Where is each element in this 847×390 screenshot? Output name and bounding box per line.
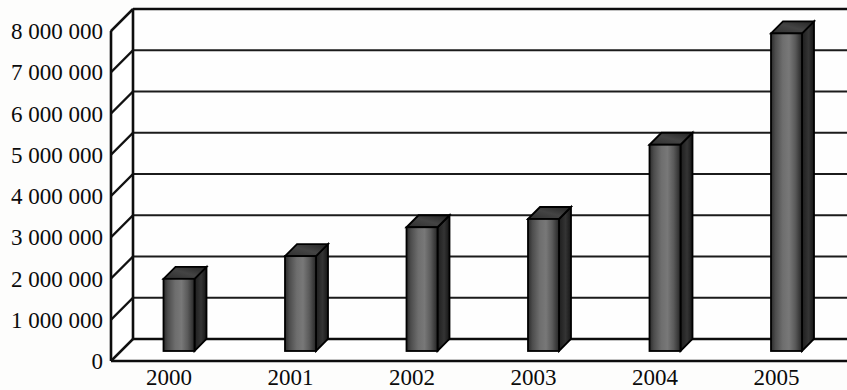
x-category-label: 2002 [389, 365, 435, 390]
x-category-label: 2005 [754, 365, 800, 390]
bar-front-face [407, 227, 438, 351]
y-tick-label: 0 [92, 349, 104, 374]
bar-front-face [771, 33, 802, 351]
x-category-label: 2003 [511, 365, 557, 390]
bar-side-face [195, 267, 207, 351]
bar-side-face [559, 207, 571, 351]
y-tick-label: 8 000 000 [11, 19, 103, 44]
x-category-label: 2001 [268, 365, 314, 390]
bar-chart-figure: 01 000 0002 000 0003 000 0004 000 0005 0… [0, 0, 847, 390]
bar-2003 [528, 207, 571, 351]
bar-side-face [681, 133, 693, 351]
bar-2002 [407, 215, 450, 351]
x-axis-category-labels: 200020012002200320042005 [146, 365, 800, 390]
bar-front-face [650, 145, 681, 351]
y-tick-label: 4 000 000 [11, 184, 103, 209]
bar-2000 [164, 267, 207, 351]
y-tick-label: 2 000 000 [11, 267, 103, 292]
chart-canvas: 01 000 0002 000 0003 000 0004 000 0005 0… [0, 0, 847, 390]
bar-side-face [438, 215, 450, 351]
y-tick-label: 5 000 000 [11, 143, 103, 168]
bar-front-face [164, 279, 195, 351]
y-axis-tick-labels: 01 000 0002 000 0003 000 0004 000 0005 0… [11, 19, 103, 374]
y-tick-label: 6 000 000 [11, 102, 103, 127]
bar-2004 [650, 133, 693, 351]
bar-front-face [285, 256, 316, 351]
bar-2001 [285, 244, 328, 351]
bar-2005 [771, 21, 814, 351]
plot-floor-plane [111, 339, 847, 361]
bar-side-face [802, 21, 814, 351]
bar-side-face [316, 244, 328, 351]
x-category-label: 2004 [632, 365, 679, 390]
y-tick-label: 3 000 000 [11, 225, 103, 250]
x-category-label: 2000 [146, 365, 192, 390]
y-tick-label: 1 000 000 [11, 308, 103, 333]
y-tick-label: 7 000 000 [11, 60, 103, 85]
bar-front-face [528, 219, 559, 351]
